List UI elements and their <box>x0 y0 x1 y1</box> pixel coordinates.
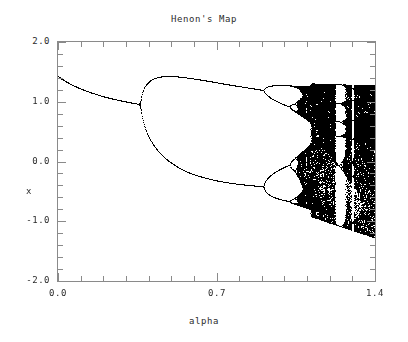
y-axis-tick <box>370 138 375 139</box>
y-axis-tick-label: 0.0 <box>10 156 50 166</box>
y-axis-tick <box>58 281 66 282</box>
x-axis-tick <box>330 276 331 281</box>
y-axis-tick <box>58 150 63 151</box>
y-axis-tick <box>58 102 66 103</box>
x-axis-title: alpha <box>0 316 408 326</box>
x-axis-tick <box>284 276 285 281</box>
y-axis-tick <box>370 90 375 91</box>
page-title: Henon's Map <box>0 14 408 24</box>
y-axis-tick <box>58 138 63 139</box>
y-axis-tick <box>58 257 63 258</box>
y-axis-tick <box>58 173 63 174</box>
x-axis-tick-label: 1.4 <box>355 288 395 298</box>
y-axis-tick <box>58 54 63 55</box>
x-axis-tick <box>284 42 285 47</box>
x-axis-tick <box>375 42 376 50</box>
x-axis-tick-label: 0.7 <box>197 288 237 298</box>
x-axis-tick <box>262 42 263 47</box>
y-axis-tick <box>58 114 63 115</box>
y-axis-tick <box>367 162 375 163</box>
y-axis-tick <box>58 245 63 246</box>
y-axis-tick <box>58 233 63 234</box>
y-axis-tick <box>370 114 375 115</box>
y-axis-tick <box>370 126 375 127</box>
y-axis-tick <box>370 185 375 186</box>
y-axis-tick <box>370 197 375 198</box>
x-axis-tick <box>81 276 82 281</box>
x-axis-tick <box>103 276 104 281</box>
x-axis-tick <box>171 276 172 281</box>
x-axis-tick <box>58 42 59 50</box>
y-axis-tick <box>58 221 66 222</box>
x-axis-tick <box>330 42 331 47</box>
y-axis-tick-label: -2.0 <box>10 275 50 285</box>
y-axis-tick <box>58 90 63 91</box>
x-axis-tick <box>262 276 263 281</box>
y-axis-tick <box>58 185 63 186</box>
y-axis-tick <box>370 66 375 67</box>
x-axis-tick <box>307 42 308 47</box>
x-axis-tick <box>352 42 353 47</box>
x-axis-tick <box>217 273 218 281</box>
y-axis-tick <box>58 66 63 67</box>
y-axis-tick-label: 2.0 <box>10 36 50 46</box>
y-axis-tick-label: 1.0 <box>10 96 50 106</box>
y-axis-tick <box>58 42 66 43</box>
y-axis-tick <box>370 78 375 79</box>
x-axis-tick <box>217 42 218 50</box>
x-axis-tick <box>81 42 82 47</box>
y-axis-tick <box>370 54 375 55</box>
x-axis-tick <box>194 276 195 281</box>
x-axis-tick <box>307 276 308 281</box>
y-axis-title: x <box>26 186 31 196</box>
y-axis-tick <box>58 197 63 198</box>
x-axis-tick <box>171 42 172 47</box>
y-axis-tick-label: -1.0 <box>10 215 50 225</box>
henon-map-figure: Henon's Map 2.01.00.0-1.0-2.00.00.71.4 x… <box>0 0 408 342</box>
y-axis-tick <box>58 209 63 210</box>
y-axis-tick <box>370 269 375 270</box>
x-axis-tick <box>58 273 59 281</box>
x-axis-tick <box>126 42 127 47</box>
y-axis-tick <box>370 150 375 151</box>
x-axis-tick <box>103 42 104 47</box>
x-axis-tick <box>149 42 150 47</box>
x-axis-tick <box>239 276 240 281</box>
y-axis-tick <box>370 209 375 210</box>
y-axis-tick <box>370 173 375 174</box>
y-axis-tick <box>58 269 63 270</box>
x-axis-tick <box>126 276 127 281</box>
y-axis-tick <box>370 233 375 234</box>
x-axis-tick <box>149 276 150 281</box>
bifurcation-diagram-canvas <box>58 42 375 281</box>
x-axis-tick <box>194 42 195 47</box>
y-axis-tick <box>58 126 63 127</box>
y-axis-tick <box>370 245 375 246</box>
y-axis-tick <box>58 78 63 79</box>
y-axis-tick <box>367 42 375 43</box>
y-axis-tick <box>370 257 375 258</box>
x-axis-tick <box>239 42 240 47</box>
y-axis-tick <box>58 162 66 163</box>
x-axis-tick <box>352 276 353 281</box>
y-axis-tick <box>367 221 375 222</box>
x-axis-tick-label: 0.0 <box>38 288 78 298</box>
y-axis-tick <box>367 102 375 103</box>
y-axis-tick <box>367 281 375 282</box>
x-axis-tick <box>375 273 376 281</box>
